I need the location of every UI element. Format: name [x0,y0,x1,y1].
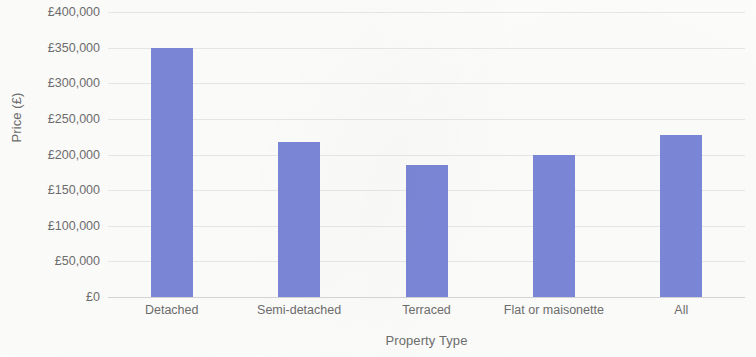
y-axis-tick-label: £300,000 [14,76,100,90]
y-axis-tick-label: £400,000 [14,5,100,19]
y-axis-tick-label: £0 [14,290,100,304]
bar [533,155,575,298]
x-axis-tick-label: All [674,303,688,317]
x-axis-tick-label: Flat or maisonette [504,303,604,317]
y-axis-tick-label: £150,000 [14,183,100,197]
x-axis-title: Property Type [108,333,745,348]
x-axis-tick-label: Semi-detached [257,303,341,317]
y-axis-tick-label: £250,000 [14,112,100,126]
bar [660,135,702,297]
bar-chart: Price (£) £400,000£350,000£300,000£250,0… [0,0,756,357]
gridline [108,83,745,84]
gridline [108,119,745,120]
y-axis-tick-label: £200,000 [14,148,100,162]
plot-area: £400,000£350,000£300,000£250,000£200,000… [108,12,745,297]
y-axis-tick-label: £350,000 [14,41,100,55]
gridline [108,155,745,156]
bar [151,48,193,297]
y-axis-tick-label: £100,000 [14,219,100,233]
bar [406,165,448,297]
bar [278,142,320,297]
gridline [108,12,745,13]
x-axis-tick-label: Detached [145,303,199,317]
gridline [108,48,745,49]
gridline [108,297,745,298]
y-axis-tick-label: £50,000 [14,254,100,268]
x-axis-tick-label: Terraced [402,303,451,317]
